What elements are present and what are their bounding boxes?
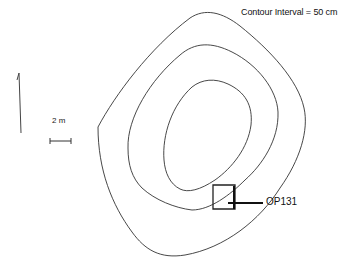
scale-bar bbox=[50, 138, 71, 144]
north-arrow-icon bbox=[17, 73, 21, 133]
excavation-unit-square bbox=[213, 185, 235, 209]
contour-interval-label: Contour Interval = 50 cm bbox=[241, 7, 337, 17]
contour-middle bbox=[128, 45, 278, 210]
scale-bar-label: 2 m bbox=[52, 116, 65, 125]
contour-map-canvas bbox=[0, 0, 348, 270]
contour-inner bbox=[164, 80, 252, 191]
excavation-unit-label: OP131 bbox=[266, 196, 297, 207]
